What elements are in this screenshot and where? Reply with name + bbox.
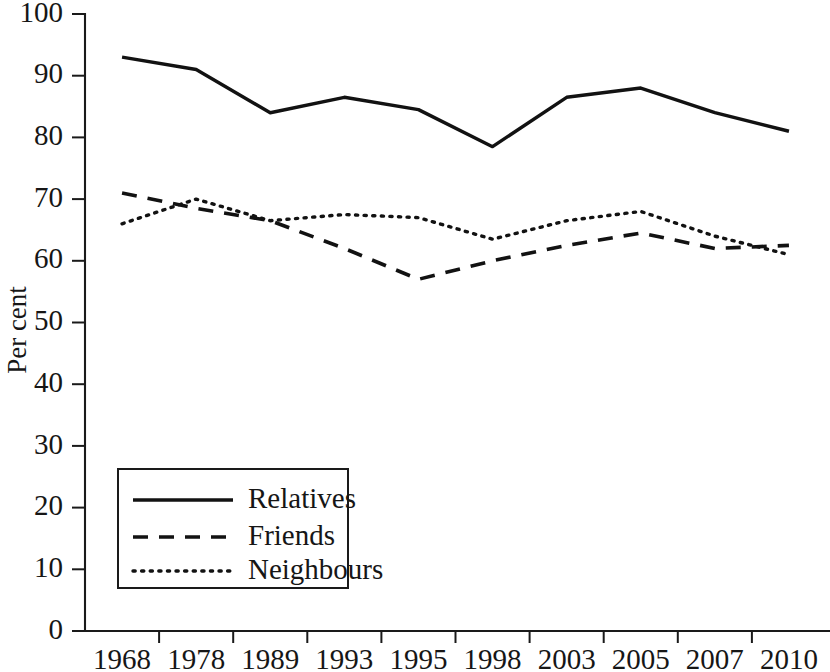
y-tick-label: 0	[49, 613, 64, 645]
y-tick-label: 70	[34, 181, 63, 213]
y-tick-label: 40	[34, 366, 63, 398]
x-tick-label: 2007	[686, 643, 744, 672]
series-line-neighbours	[122, 199, 789, 255]
legend-label-neighbours: Neighbours	[248, 553, 383, 585]
chart-legend: RelativesFriendsNeighbours	[118, 469, 383, 588]
y-tick-label: 60	[34, 242, 63, 274]
x-tick-marks	[159, 631, 752, 643]
x-tick-label: 2010	[760, 643, 818, 672]
x-tick-label: 2003	[538, 643, 596, 672]
x-tick-label: 1998	[464, 643, 522, 672]
x-tick-label: 1978	[167, 643, 225, 672]
x-tick-label: 1995	[389, 643, 447, 672]
x-tick-label: 1968	[93, 643, 151, 672]
y-tick-label: 100	[20, 0, 64, 28]
x-tick-label: 2005	[612, 643, 670, 672]
legend-label-friends: Friends	[248, 519, 335, 551]
y-tick-label: 10	[34, 551, 63, 583]
y-axis-title: Per cent	[2, 286, 32, 374]
y-tick-label: 20	[34, 489, 63, 521]
x-tick-label: 1989	[241, 643, 299, 672]
y-tick-label: 80	[34, 119, 63, 151]
chart-canvas: 0102030405060708090100 Per cent 19681978…	[0, 0, 830, 672]
y-tick-label: 50	[34, 304, 63, 336]
data-series-group	[122, 57, 789, 279]
y-axis-group: 0102030405060708090100 Per cent	[2, 0, 85, 645]
y-tick-label: 90	[34, 57, 63, 89]
x-axis-group: 1968197819891993199519982003200520072010	[85, 631, 830, 672]
x-tick-label: 1993	[315, 643, 373, 672]
line-chart: 0102030405060708090100 Per cent 19681978…	[0, 0, 830, 672]
legend-label-relatives: Relatives	[248, 482, 356, 514]
y-tick-label: 30	[34, 428, 63, 460]
series-line-relatives	[122, 57, 789, 146]
y-tick-marks	[72, 14, 85, 631]
x-tick-labels: 1968197819891993199519982003200520072010	[93, 643, 818, 672]
